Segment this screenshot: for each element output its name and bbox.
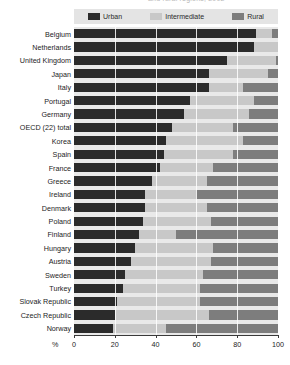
bar-row[interactable] bbox=[74, 136, 278, 145]
legend-label-intermediate: Intermediate bbox=[165, 13, 204, 20]
bar-segment-urban bbox=[74, 203, 145, 212]
category-label: Turkey bbox=[0, 285, 71, 292]
bar-row[interactable] bbox=[74, 123, 278, 132]
bar-row[interactable] bbox=[74, 83, 278, 92]
x-axis-tick-80 bbox=[237, 335, 238, 338]
category-label: Denmark bbox=[0, 205, 71, 212]
bar-segment-urban bbox=[74, 163, 160, 172]
bar-segment-intermediate bbox=[125, 270, 203, 279]
bar-row[interactable] bbox=[74, 270, 278, 279]
bar-segment-intermediate bbox=[160, 163, 213, 172]
bar-row[interactable] bbox=[74, 217, 278, 226]
axis-unit-label: % bbox=[52, 340, 58, 349]
bar-segment-rural bbox=[211, 217, 278, 226]
bar-segment-rural bbox=[254, 96, 278, 105]
bar-segment-rural bbox=[207, 203, 278, 212]
bar-row[interactable] bbox=[74, 190, 278, 199]
x-axis-tick-label: 60 bbox=[192, 340, 200, 349]
bar-row[interactable] bbox=[74, 243, 278, 252]
bar-segment-intermediate bbox=[135, 243, 213, 252]
bar-row[interactable] bbox=[74, 284, 278, 293]
bar-row[interactable] bbox=[74, 297, 278, 306]
bar-row[interactable] bbox=[74, 257, 278, 266]
bar-segment-urban bbox=[74, 42, 254, 51]
bar-row[interactable] bbox=[74, 56, 278, 65]
bar-segment-urban bbox=[74, 176, 152, 185]
x-axis-tick-60 bbox=[196, 335, 197, 338]
bar-segment-rural bbox=[233, 150, 278, 159]
bar-segment-rural bbox=[200, 297, 278, 306]
chart-title-text: and rural regions, 2002 bbox=[148, 0, 225, 2]
category-label: Greece bbox=[0, 178, 71, 185]
category-label: Poland bbox=[0, 218, 71, 225]
bar-segment-rural bbox=[176, 230, 278, 239]
category-label: Ireland bbox=[0, 191, 71, 198]
category-label: Portugal bbox=[0, 98, 71, 105]
bar-segment-rural bbox=[249, 109, 278, 118]
x-axis-tick-label: 0 bbox=[72, 340, 76, 349]
bar-row[interactable] bbox=[74, 310, 278, 319]
bar-segment-rural bbox=[211, 257, 278, 266]
legend-label-rural: Rural bbox=[247, 13, 264, 20]
bar-row[interactable] bbox=[74, 42, 278, 51]
category-label: France bbox=[0, 165, 71, 172]
bar-row[interactable] bbox=[74, 96, 278, 105]
plot-area bbox=[74, 27, 278, 335]
bar-row[interactable] bbox=[74, 163, 278, 172]
bar-segment-urban bbox=[74, 190, 145, 199]
bar-segment-intermediate bbox=[131, 257, 211, 266]
bar-segment-urban bbox=[74, 217, 143, 226]
bar-segment-urban bbox=[74, 257, 131, 266]
category-label: Belgium bbox=[0, 31, 71, 38]
bar-segment-intermediate bbox=[145, 203, 206, 212]
bar-segment-urban bbox=[74, 297, 117, 306]
bar-segment-urban bbox=[74, 123, 172, 132]
bar-segment-rural bbox=[213, 163, 278, 172]
bar-row[interactable] bbox=[74, 109, 278, 118]
bar-row[interactable] bbox=[74, 230, 278, 239]
bar-segment-urban bbox=[74, 230, 139, 239]
bar-segment-rural bbox=[209, 310, 278, 319]
legend-item-rural[interactable]: Rural bbox=[232, 13, 264, 20]
x-axis-tick-0 bbox=[74, 335, 75, 338]
bar-segment-intermediate bbox=[117, 297, 201, 306]
gridline-40 bbox=[156, 27, 157, 335]
bar-row[interactable] bbox=[74, 150, 278, 159]
category-label: Slovak Republic bbox=[0, 298, 71, 305]
legend-item-intermediate[interactable]: Intermediate bbox=[150, 13, 204, 20]
bar-row[interactable] bbox=[74, 176, 278, 185]
category-label: Netherlands bbox=[0, 44, 71, 51]
x-axis-tick-100 bbox=[278, 335, 279, 338]
bar-segment-rural bbox=[243, 136, 278, 145]
bar-row[interactable] bbox=[74, 203, 278, 212]
bar-segment-intermediate bbox=[209, 69, 268, 78]
bar-segment-rural bbox=[233, 123, 278, 132]
x-axis-tick-20 bbox=[115, 335, 116, 338]
chart-title-fragment: and rural regions, 2002 bbox=[0, 0, 290, 9]
bar-segment-urban bbox=[74, 310, 115, 319]
bar-segment-intermediate bbox=[113, 324, 166, 333]
bar-segment-urban bbox=[74, 56, 227, 65]
x-axis-tick-label: 80 bbox=[233, 340, 241, 349]
legend-label-urban: Urban bbox=[103, 13, 122, 20]
bar-row[interactable] bbox=[74, 324, 278, 333]
legend-item-urban[interactable]: Urban bbox=[88, 13, 122, 20]
category-label: Germany bbox=[0, 111, 71, 118]
bar-segment-intermediate bbox=[166, 136, 244, 145]
bar-segment-urban bbox=[74, 136, 166, 145]
stacked-bar-chart: and rural regions, 2002 UrbanIntermediat… bbox=[0, 0, 290, 365]
bar-rows bbox=[74, 27, 278, 335]
category-axis-labels: BelgiumNetherlandsUnited KingdomJapanIta… bbox=[0, 27, 71, 335]
category-label: Hungary bbox=[0, 245, 71, 252]
category-label: Finland bbox=[0, 231, 71, 238]
bar-row[interactable] bbox=[74, 69, 278, 78]
bar-segment-intermediate bbox=[172, 123, 233, 132]
bar-segment-intermediate bbox=[227, 56, 276, 65]
gridline-20 bbox=[115, 27, 116, 335]
bar-row[interactable] bbox=[74, 29, 278, 38]
gridline-100 bbox=[278, 27, 279, 335]
category-label: Korea bbox=[0, 138, 71, 145]
bar-segment-intermediate bbox=[164, 150, 233, 159]
category-label: Italy bbox=[0, 84, 71, 91]
x-axis-tick-label: 100 bbox=[272, 340, 284, 349]
